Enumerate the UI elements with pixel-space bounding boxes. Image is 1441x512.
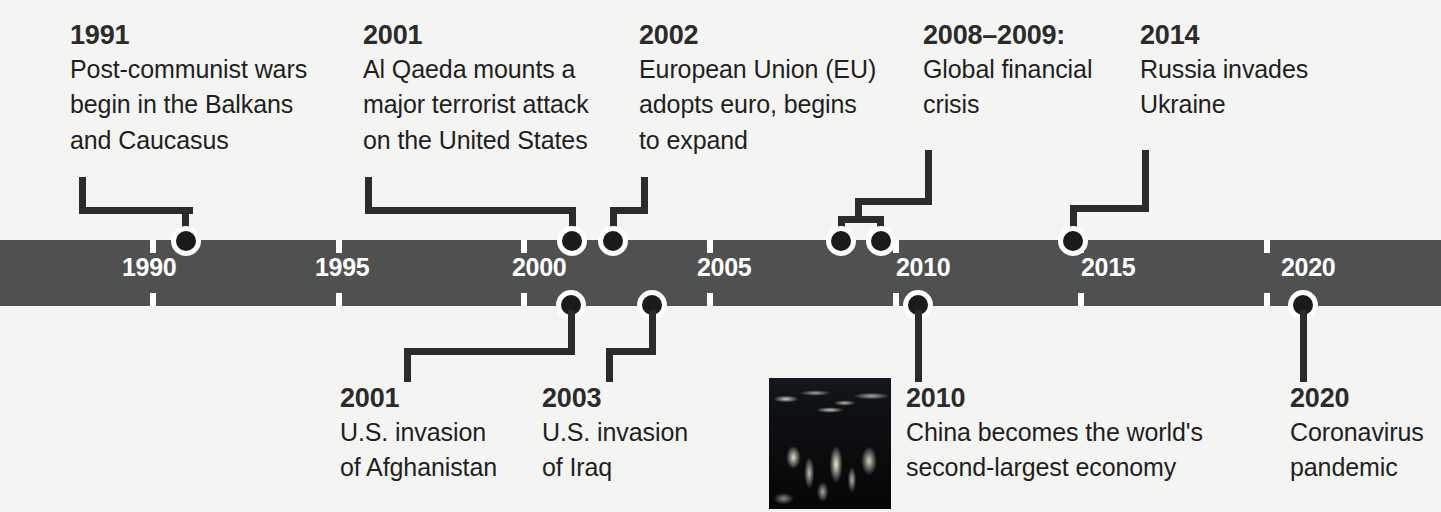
callout-line: crisis — [923, 87, 1092, 123]
callout-description: European Union (EU) adopts euro, begins … — [639, 52, 876, 159]
callout-line: and Caucasus — [70, 123, 307, 159]
callout-description: U.S. invasion of Iraq — [542, 415, 688, 486]
axis-tick-2000-bottom — [521, 293, 527, 306]
axis-year-2015: 2015 — [1081, 253, 1135, 282]
callout-line: U.S. invasion — [542, 415, 688, 451]
connector-2001b-stem — [404, 348, 411, 382]
axis-tick-2005-bottom — [707, 293, 713, 306]
marker-2014[interactable] — [1058, 226, 1088, 256]
callout-2003: 2003 U.S. invasion of Iraq — [542, 383, 688, 486]
connector-2008-stem — [925, 150, 932, 205]
callout-line: Post-communist wars — [70, 52, 307, 88]
connector-2008-jog — [855, 198, 932, 205]
callout-year: 2020 — [1290, 383, 1424, 415]
callout-description: Global financial crisis — [923, 52, 1092, 123]
connector-2003-stem — [606, 348, 613, 382]
callout-year: 2002 — [639, 20, 876, 52]
callout-year: 2003 — [542, 383, 688, 415]
marker-1991[interactable] — [171, 226, 201, 256]
axis-tick-2010-bottom — [893, 293, 899, 306]
connector-2014-arm — [1070, 205, 1149, 212]
callout-line: European Union (EU) — [639, 52, 876, 88]
callout-line: Coronavirus — [1290, 415, 1424, 451]
marker-2008[interactable] — [826, 226, 856, 256]
callout-2001-above: 2001 Al Qaeda mounts a major terrorist a… — [363, 20, 589, 158]
callout-line: Russia invades — [1140, 52, 1308, 88]
callout-line: adopts euro, begins — [639, 87, 876, 123]
callout-line: Global financial — [923, 52, 1092, 88]
connector-2001b-arm — [404, 348, 575, 355]
marker-2001-above[interactable] — [557, 226, 587, 256]
callout-description: Russia invades Ukraine — [1140, 52, 1308, 123]
callout-2010: 2010 China becomes the world's second-la… — [906, 383, 1203, 486]
callout-description: Al Qaeda mounts a major terrorist attack… — [363, 52, 589, 159]
connector-2001-arm — [365, 207, 576, 214]
connector-2020-stem — [1300, 310, 1307, 382]
axis-tick-1990-bottom — [150, 293, 156, 306]
callout-line: U.S. invasion — [340, 415, 497, 451]
callout-description: Coronavirus pandemic — [1290, 415, 1424, 486]
callout-2002: 2002 European Union (EU) adopts euro, be… — [639, 20, 876, 158]
marker-2009[interactable] — [866, 226, 896, 256]
callout-description: U.S. invasion of Afghanistan — [340, 415, 497, 486]
axis-year-2000: 2000 — [512, 253, 566, 282]
callout-year: 2014 — [1140, 20, 1308, 52]
axis-tick-2000-top — [521, 240, 527, 253]
callout-1991: 1991 Post-communist wars begin in the Ba… — [70, 20, 307, 158]
axis-tick-1990-top — [150, 240, 156, 253]
axis-tick-1995-top — [336, 240, 342, 253]
callout-year: 2008–2009: — [923, 20, 1092, 52]
callout-line: China becomes the world's — [906, 415, 1203, 451]
connector-2001b-drop — [568, 310, 575, 352]
connector-2010-stem — [915, 310, 922, 382]
callout-description: China becomes the world's second-largest… — [906, 415, 1203, 486]
axis-tick-2020-top — [1264, 240, 1270, 253]
axis-tick-2020-bottom — [1264, 293, 1270, 306]
axis-year-2010: 2010 — [896, 253, 950, 282]
callout-line: of Afghanistan — [340, 450, 497, 486]
callout-line: on the United States — [363, 123, 589, 159]
callout-line: second-largest economy — [906, 450, 1203, 486]
axis-tick-1995-bottom — [336, 293, 342, 306]
photo-sky-region — [769, 378, 891, 428]
callout-line: pandemic — [1290, 450, 1424, 486]
callout-2008-2009: 2008–2009: Global financial crisis — [923, 20, 1092, 123]
callout-line: major terrorist attack — [363, 87, 589, 123]
axis-year-1995: 1995 — [315, 253, 369, 282]
callout-2020: 2020 Coronavirus pandemic — [1290, 383, 1424, 486]
callout-year: 2010 — [906, 383, 1203, 415]
marker-2002[interactable] — [598, 226, 628, 256]
connector-2003-arm — [606, 348, 656, 355]
connector-2014-stem — [1142, 150, 1149, 212]
axis-year-2020: 2020 — [1281, 253, 1335, 282]
axis-year-2005: 2005 — [697, 253, 751, 282]
night-cityscape-photo — [769, 378, 891, 509]
callout-line: begin in the Balkans — [70, 87, 307, 123]
connector-2003-drop — [649, 310, 656, 352]
callout-line: to expand — [639, 123, 876, 159]
callout-2014: 2014 Russia invades Ukraine — [1140, 20, 1308, 123]
callout-line: Al Qaeda mounts a — [363, 52, 589, 88]
callout-description: Post-communist wars begin in the Balkans… — [70, 52, 307, 159]
axis-year-1990: 1990 — [122, 253, 176, 282]
callout-year: 2001 — [340, 383, 497, 415]
callout-year: 2001 — [363, 20, 589, 52]
callout-line: of Iraq — [542, 450, 688, 486]
callout-2001-below: 2001 U.S. invasion of Afghanistan — [340, 383, 497, 486]
callout-line: Ukraine — [1140, 87, 1308, 123]
callout-year: 1991 — [70, 20, 307, 52]
axis-tick-2015-bottom — [1078, 293, 1084, 306]
axis-tick-2005-top — [707, 240, 713, 253]
timeline-infographic: 1991 Post-communist wars begin in the Ba… — [0, 0, 1441, 512]
photo-city-region — [769, 423, 891, 509]
connector-1991-arm — [79, 207, 193, 214]
